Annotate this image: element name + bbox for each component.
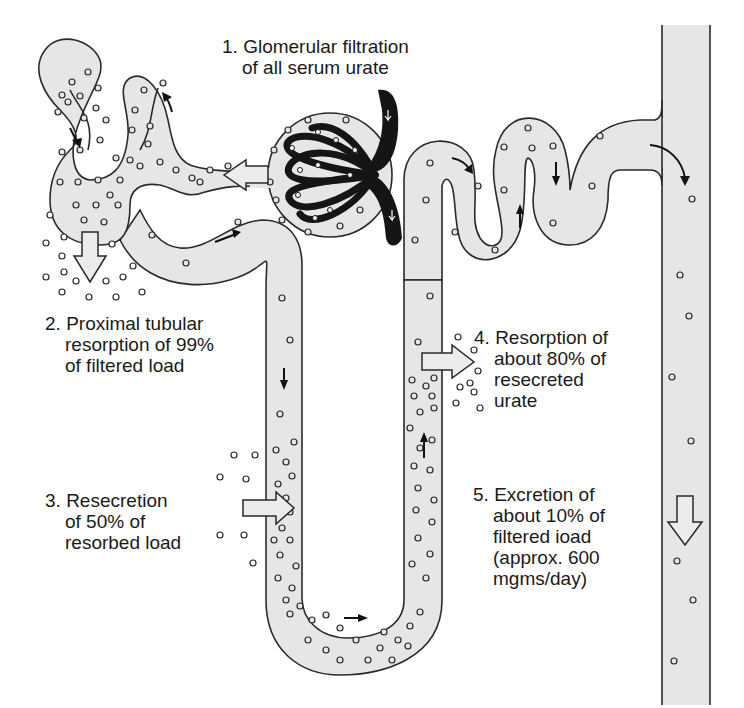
label-line: resecreted (474, 369, 608, 390)
label-line: about 10% of (473, 505, 605, 526)
label-excretion: 5. Excretion of about 10% of filtered io… (473, 484, 605, 589)
collecting-duct (662, 25, 710, 705)
step-number: 4. (474, 327, 490, 348)
label-line: of 50% of (45, 511, 181, 532)
label-line: resorption of 99% (45, 334, 214, 355)
label-line: (approx. 600 (473, 547, 605, 568)
loop-of-henle (120, 210, 442, 675)
label-distal-resorption: 4. Resorption of about 80% of resecreted… (474, 327, 608, 411)
step-number: 1. (222, 36, 238, 57)
label-line: Proximal tubular (66, 313, 203, 334)
label-line: resorbed load (45, 532, 181, 553)
label-line: urate (474, 390, 608, 411)
label-line: mgms/day) (473, 568, 605, 589)
label-line: Excretion of (494, 484, 594, 505)
label-line: about 80% of (474, 348, 608, 369)
distal-convoluted-tubule (404, 100, 662, 280)
step-number: 5. (473, 484, 489, 505)
label-proximal-resorption: 2. Proximal tubular resorption of 99% of… (45, 313, 214, 376)
label-line: of filtered load (45, 355, 214, 376)
step-number: 2. (45, 313, 61, 334)
label-line: Resecretion (66, 490, 167, 511)
label-line: of all serum urate (222, 57, 409, 78)
step-number: 3. (45, 490, 61, 511)
label-resecretion: 3. Resecretion of 50% of resorbed load (45, 490, 181, 553)
label-glomerular-filtration: 1. Glomerular filtration of all serum ur… (222, 36, 409, 78)
label-line: filtered ioad (473, 526, 605, 547)
label-line: Glomerular filtration (243, 36, 409, 57)
label-line: Resorption of (495, 327, 608, 348)
